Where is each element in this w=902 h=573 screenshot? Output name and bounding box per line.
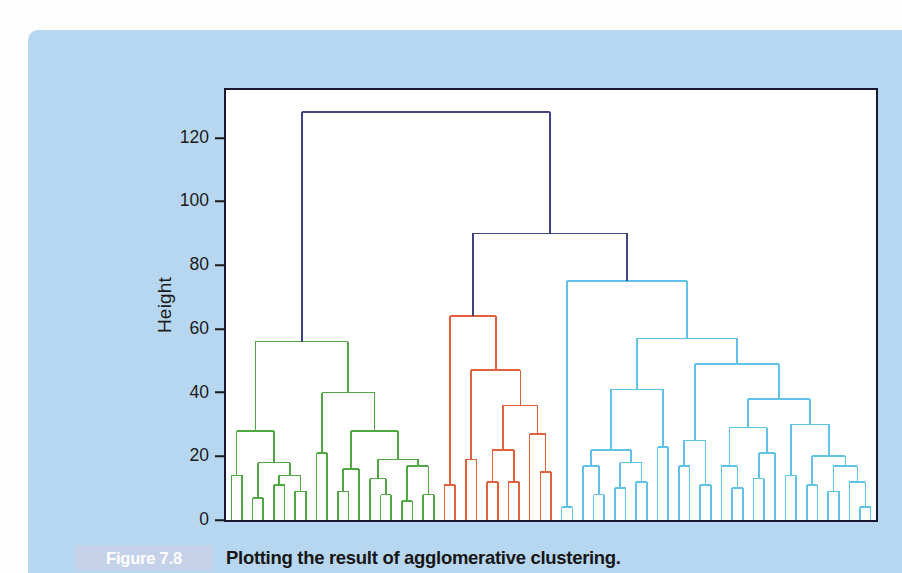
y-axis-tickmark <box>215 264 224 266</box>
y-axis-tickmark <box>215 328 224 330</box>
figure-caption: Plotting the result of agglomerative clu… <box>226 544 621 572</box>
y-axis-tickmark <box>215 137 224 139</box>
figure-label-badge: Figure 7.8 <box>74 545 214 571</box>
y-axis-tickmark <box>215 455 224 457</box>
figure-panel: Height 020406080100120 Figure 7.8 Plotti… <box>28 30 902 573</box>
figure-label: Figure 7.8 <box>106 549 182 568</box>
y-axis-tickmark <box>215 519 224 521</box>
y-axis-title-wrap: Height <box>152 90 178 520</box>
y-axis-tickmark <box>215 392 224 394</box>
dendrogram-svg <box>226 90 876 520</box>
page: Height 020406080100120 Figure 7.8 Plotti… <box>0 0 902 573</box>
y-axis-tickmark <box>215 200 224 202</box>
plot-area: Height 020406080100120 <box>224 88 878 522</box>
y-axis-title: Height <box>154 277 176 333</box>
